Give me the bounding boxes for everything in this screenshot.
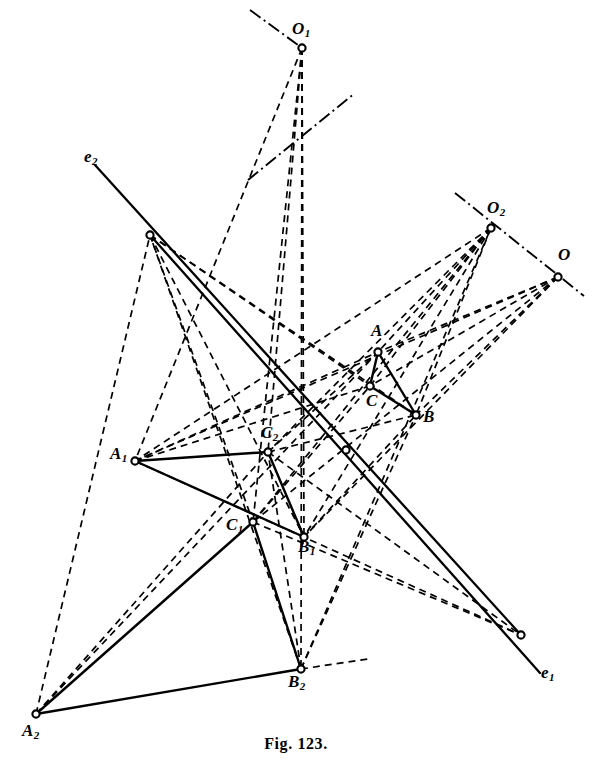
point-label-C2: C2 [261, 424, 278, 443]
vertex-node-O2 [487, 224, 494, 231]
point-label-subscript-O1: 1 [305, 27, 311, 39]
point-label-C1: C1 [226, 516, 243, 535]
solid-line-axis-e2 [95, 165, 521, 635]
dashed-ray-A1-to-A [135, 352, 378, 461]
vertex-node-O [554, 273, 561, 280]
point-label-subscript-A1: 1 [122, 452, 128, 464]
dashed-ray-P1-to-B1 [150, 235, 304, 537]
vertex-node-P1 [146, 231, 153, 238]
triangle-edge-A2-B2 [36, 669, 301, 714]
dashed-ray-O2-to-C [370, 228, 491, 386]
dashed-ray-A2-to-C2 [36, 452, 268, 714]
triangle-edge-A1-B1 [135, 461, 304, 537]
vertex-node-A [374, 348, 381, 355]
point-label-subscript-B1: 1 [310, 545, 316, 557]
vertex-node-P3 [517, 631, 524, 638]
dashed-projection-rays-layer [36, 48, 558, 714]
point-label-E2: e2 [84, 148, 98, 167]
vertex-node-B [412, 411, 419, 418]
point-label-subscript-E2: 2 [92, 155, 98, 167]
dashed-ray-O-to-C [370, 277, 558, 386]
figure-container: O1O2OACBA1C2C1B1A2B2e2e1 Fig. 123. [0, 0, 592, 769]
geometry-figure-canvas [0, 0, 592, 769]
triangle-edge-A2-C1 [36, 522, 253, 714]
point-label-C: C [366, 392, 377, 409]
dashed-ray-C2-to-B [268, 415, 416, 452]
vertex-node-C2 [264, 448, 271, 455]
point-label-subscript-C1: 1 [238, 523, 244, 535]
dashed-ray-C2-to-A [268, 352, 378, 452]
vertex-node-P2 [342, 446, 349, 453]
dashed-ray-P1-to-C [150, 235, 370, 386]
point-label-B2: B2 [288, 673, 305, 692]
dashed-ray-A2-to-A [36, 352, 378, 714]
dashed-ray-O1-to-B2 [301, 48, 302, 669]
dashed-ray-B2-to-P1 [150, 235, 301, 669]
point-label-O1: O1 [292, 20, 310, 39]
point-label-O: O [558, 246, 570, 263]
triangle-edge-C1-B2 [253, 522, 301, 669]
point-label-O2: O2 [487, 199, 505, 218]
point-label-subscript-O2: 2 [500, 206, 506, 218]
vertex-node-O1 [298, 44, 305, 51]
point-label-subscript-E1: 1 [549, 671, 555, 683]
point-label-A: A [371, 322, 382, 339]
point-label-B1: B1 [298, 538, 315, 557]
point-label-subscript-C2: 2 [273, 431, 279, 443]
dashed-ray-A2-to-P1 [36, 235, 150, 714]
vertex-node-C1 [249, 518, 256, 525]
dashed-ray-O1-to-C2 [268, 48, 302, 452]
dash-dot-axes-layer [248, 10, 584, 296]
point-label-E1: e1 [541, 664, 555, 683]
solid-axis-lines-layer [95, 165, 540, 673]
triangle-edge-A1-C2 [135, 452, 268, 461]
vertex-node-A1 [131, 457, 138, 464]
vertex-node-A2 [32, 710, 39, 717]
vertex-node-C [366, 382, 373, 389]
point-label-A1: A1 [110, 445, 127, 464]
dashed-ray-A1-to-C [135, 386, 370, 461]
vertex-nodes-layer [32, 44, 561, 717]
point-label-subscript-B2: 2 [300, 680, 306, 692]
point-label-B: B [423, 408, 434, 425]
figure-caption: Fig. 123. [0, 735, 592, 753]
dashed-ray-B2-to-right [301, 659, 368, 669]
dashed-ray-B2-to-O2 [301, 228, 491, 669]
